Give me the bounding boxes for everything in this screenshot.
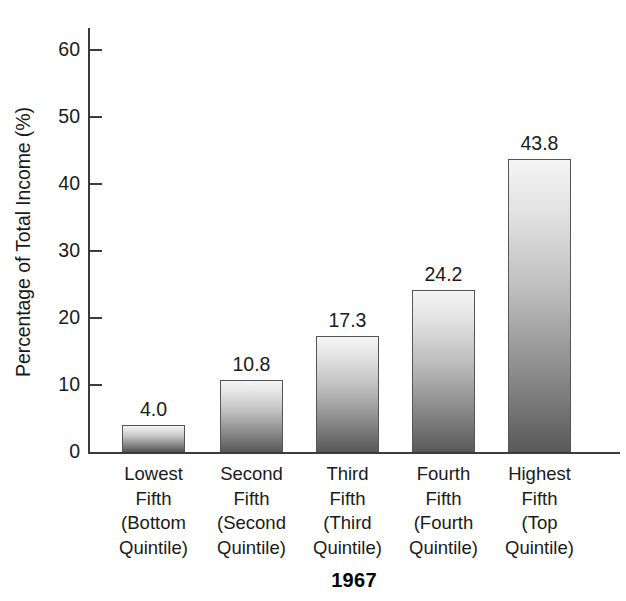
x-axis-category-label: ThirdFifth(ThirdQuintile) bbox=[296, 462, 400, 560]
x-axis-line bbox=[88, 452, 620, 454]
x-axis-category-label-line: Fourth bbox=[392, 462, 496, 487]
x-axis-category-label-line: (Fourth bbox=[392, 511, 496, 536]
x-axis-category-label-line: (Third bbox=[296, 511, 400, 536]
bar bbox=[508, 159, 571, 452]
y-axis-tick-label: 0 bbox=[28, 442, 80, 462]
y-axis-tick-label: 10 bbox=[28, 375, 80, 395]
x-axis-category-label-line: Quintile) bbox=[102, 536, 206, 561]
x-axis-category-label-line: Quintile) bbox=[392, 536, 496, 561]
x-axis-category-label-line: Highest bbox=[488, 462, 592, 487]
x-axis-category-label-line: Fifth bbox=[200, 487, 304, 512]
x-axis-category-label-line: Quintile) bbox=[488, 536, 592, 561]
x-axis-category-label-line: Fifth bbox=[392, 487, 496, 512]
bar bbox=[412, 290, 475, 452]
x-axis-category-label-line: Second bbox=[200, 462, 304, 487]
y-axis-line bbox=[88, 28, 90, 454]
y-axis-tick-mark bbox=[90, 49, 102, 51]
y-axis-tick-label: 20 bbox=[28, 308, 80, 328]
bar-value-label: 10.8 bbox=[198, 354, 305, 374]
y-axis-tick-label-text: 50 bbox=[36, 107, 80, 127]
x-axis-category-label-line: (Bottom bbox=[102, 511, 206, 536]
x-axis-category-label-line: Third bbox=[296, 462, 400, 487]
chart-title: 1967 bbox=[88, 568, 620, 592]
x-axis-category-label-line: Quintile) bbox=[296, 536, 400, 561]
x-axis-category-label-line: (Top bbox=[488, 511, 592, 536]
bar bbox=[122, 425, 185, 452]
bar bbox=[316, 336, 379, 452]
y-axis-tick-mark bbox=[90, 250, 102, 252]
x-axis-category-label-line: (Second bbox=[200, 511, 304, 536]
y-axis-tick-mark bbox=[90, 116, 102, 118]
y-axis-tick-label-text: 40 bbox=[36, 174, 80, 194]
x-axis-category-label-line: Fifth bbox=[488, 487, 592, 512]
bar-chart: Percentage of Total Income (%) 010203040… bbox=[0, 0, 626, 601]
bar-value-label: 17.3 bbox=[294, 310, 401, 330]
y-axis-tick-label-text: 0 bbox=[36, 442, 80, 462]
y-axis-tick-mark bbox=[90, 183, 102, 185]
x-axis-category-label-line: Fifth bbox=[296, 487, 400, 512]
bar bbox=[220, 380, 283, 452]
y-axis-tick-label: 40 bbox=[28, 174, 80, 194]
x-axis-category-label: FourthFifth(FourthQuintile) bbox=[392, 462, 496, 560]
y-axis-tick-label-text: 20 bbox=[36, 308, 80, 328]
bar-value-label: 4.0 bbox=[100, 399, 207, 419]
x-axis-category-label: HighestFifth(TopQuintile) bbox=[488, 462, 592, 560]
y-axis-tick-label: 30 bbox=[28, 241, 80, 261]
x-axis-category-label-line: Fifth bbox=[102, 487, 206, 512]
y-axis-tick-label: 50 bbox=[28, 107, 80, 127]
bar-value-label: 24.2 bbox=[390, 264, 497, 284]
x-axis-category-label: LowestFifth(BottomQuintile) bbox=[102, 462, 206, 560]
x-axis-category-label-line: Quintile) bbox=[200, 536, 304, 561]
bar-value-label: 43.8 bbox=[486, 133, 593, 153]
x-axis-category-label: SecondFifth(SecondQuintile) bbox=[200, 462, 304, 560]
x-axis-category-label-line: Lowest bbox=[102, 462, 206, 487]
y-axis-tick-label-text: 60 bbox=[36, 40, 80, 60]
y-axis-tick-mark bbox=[90, 384, 102, 386]
y-axis-tick-label-text: 30 bbox=[36, 241, 80, 261]
y-axis-tick-label-text: 10 bbox=[36, 375, 80, 395]
y-axis-tick-mark bbox=[90, 317, 102, 319]
y-axis-tick-label: 60 bbox=[28, 40, 80, 60]
